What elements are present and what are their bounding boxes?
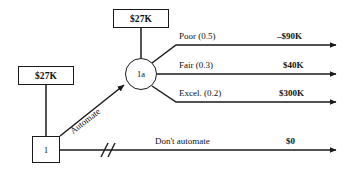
payoff-dont-automate: $0 bbox=[286, 136, 295, 146]
payoff-outcome-poor: –$90K bbox=[277, 31, 302, 41]
edge-label-outcome-fair: Fair (0.3) bbox=[179, 60, 213, 70]
edge-label-dont-automate: Don't automate bbox=[155, 136, 210, 146]
edge-label-outcome-poor: Poor (0.5) bbox=[179, 31, 216, 41]
chance-node-value-box: $27K bbox=[113, 9, 169, 28]
decision-node[interactable]: 1 bbox=[32, 136, 60, 163]
edge-label-outcome-excellent: Excel. (0.2) bbox=[179, 88, 221, 98]
chance-node[interactable]: 1a bbox=[125, 58, 157, 90]
payoff-outcome-fair: $40K bbox=[283, 60, 304, 70]
payoff-outcome-excellent: $300K bbox=[279, 88, 304, 98]
decision-node-value-box: $27K bbox=[18, 66, 74, 85]
decision-tree-diagram: $27K $27K 1 1a Automate Poor (0.5) Fair … bbox=[0, 0, 350, 174]
